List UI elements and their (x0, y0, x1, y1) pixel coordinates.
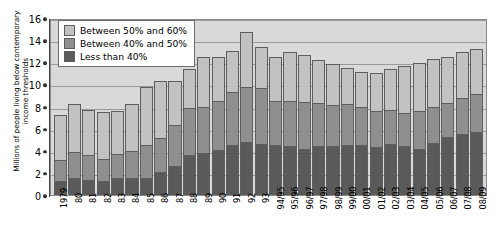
bar-segment (326, 105, 339, 146)
bar-segment (355, 107, 368, 146)
bar-segment (427, 107, 440, 144)
bar-segment (240, 32, 253, 86)
bar-segment (413, 63, 426, 111)
bar-02-03[interactable] (384, 20, 397, 195)
x-axis-label-cell: 97/98 (312, 197, 325, 247)
bar-segment (140, 87, 153, 146)
bar-segment (183, 108, 196, 156)
bar-segment (355, 72, 368, 106)
bar-99-00[interactable] (341, 20, 354, 195)
y-axis-tick-mark (43, 39, 47, 43)
bar-segment (326, 64, 339, 105)
x-axis-label-cell: 07/08 (457, 197, 470, 247)
bar-segment (82, 110, 95, 155)
x-axis-label-cell: 83 (110, 197, 123, 247)
bar-08-09[interactable] (470, 20, 483, 195)
legend-label: Between 50% and 60% (80, 25, 187, 36)
bar-segment (312, 60, 325, 103)
bar-segment (298, 102, 311, 148)
bar-92[interactable] (240, 20, 253, 195)
legend-label: Between 40% and 50% (80, 38, 187, 49)
bar-segment (168, 81, 181, 125)
x-axis-label-cell: 92 (240, 197, 253, 247)
bar-segment (398, 66, 411, 114)
legend-item[interactable]: Less than 40% (64, 50, 187, 63)
bar-00-01[interactable] (355, 20, 368, 195)
x-axis-label-cell: 94/95 (269, 197, 282, 247)
legend: Between 50% and 60%Between 40% and 50%Le… (58, 20, 195, 67)
legend-item[interactable]: Between 50% and 60% (64, 24, 187, 37)
legend-swatch-icon (64, 51, 75, 62)
bar-91[interactable] (226, 20, 239, 195)
bar-01-02[interactable] (370, 20, 383, 195)
bar-segment (197, 107, 210, 153)
bar-segment (441, 57, 454, 103)
bar-96-97[interactable] (298, 20, 311, 195)
bar-segment (283, 52, 296, 101)
bar-segment (125, 104, 138, 150)
bar-94-95[interactable] (269, 20, 282, 195)
bar-segment (197, 57, 210, 107)
bar-segment (82, 155, 95, 179)
x-axis-tick-label: 08/09 (478, 187, 488, 210)
bar-03-04[interactable] (398, 20, 411, 195)
bar-segment (168, 125, 181, 166)
y-axis-tick-label: 12 (1, 58, 41, 69)
y-axis-tick-mark (43, 62, 47, 66)
x-axis-label-cell: 87 (168, 197, 181, 247)
bar-segment (398, 113, 411, 146)
x-axis-label-cell: 86 (154, 197, 167, 247)
bar-07-08[interactable] (456, 20, 469, 195)
bar-segment (68, 104, 81, 152)
bar-04-05[interactable] (413, 20, 426, 195)
y-axis-tick-label: 14 (1, 36, 41, 47)
bar-segment (413, 111, 426, 149)
bar-segment (54, 115, 67, 159)
legend-label: Less than 40% (80, 51, 147, 62)
x-axis-label-cell: 95/96 (284, 197, 297, 247)
bar-93[interactable] (255, 20, 268, 195)
x-axis-label-cell: 1979 (53, 197, 66, 247)
x-axis-label-cell: 84 (125, 197, 138, 247)
x-axis-label-cell: 98/99 (327, 197, 340, 247)
bar-98-99[interactable] (326, 20, 339, 195)
bar-segment (255, 88, 268, 144)
x-axis-label-cell: 82 (96, 197, 109, 247)
x-axis-label-cell: 90 (211, 197, 224, 247)
stacked-bar-chart: Millions of people living below contempo… (0, 0, 500, 247)
x-axis-label-cell: 00/01 (356, 197, 369, 247)
bar-90[interactable] (212, 20, 225, 195)
bar-06-07[interactable] (441, 20, 454, 195)
bar-segment (212, 150, 225, 195)
y-axis: 0246810121416 (0, 0, 50, 247)
y-axis-tick-mark (43, 172, 47, 176)
y-axis-tick-mark (43, 106, 47, 110)
bar-segment (111, 154, 124, 178)
y-axis-tick-mark (43, 17, 47, 21)
bar-segment (140, 145, 153, 178)
bar-segment (125, 151, 138, 179)
x-axis-label-cell: 08/09 (471, 197, 484, 247)
legend-swatch-icon (64, 38, 75, 49)
bar-95-96[interactable] (283, 20, 296, 195)
bar-segment (370, 73, 383, 111)
bar-segment (197, 153, 210, 195)
bar-segment (154, 81, 167, 137)
bar-97-98[interactable] (312, 20, 325, 195)
y-axis-tick-label: 2 (1, 168, 41, 179)
bar-segment (226, 145, 239, 195)
bar-89[interactable] (197, 20, 210, 195)
y-axis-tick-label: 6 (1, 124, 41, 135)
x-axis-label-cell: 88 (183, 197, 196, 247)
legend-item[interactable]: Between 40% and 50% (64, 37, 187, 50)
x-axis-label-cell: 96/97 (298, 197, 311, 247)
y-axis-tick-mark (43, 128, 47, 132)
x-axis-label-cell: 81 (81, 197, 94, 247)
bar-segment (240, 87, 253, 142)
bar-segment (312, 103, 325, 146)
bar-segment (255, 144, 268, 195)
bar-segment (212, 101, 225, 150)
y-axis-tick-label: 4 (1, 146, 41, 157)
bar-segment (226, 51, 239, 92)
bar-05-06[interactable] (427, 20, 440, 195)
